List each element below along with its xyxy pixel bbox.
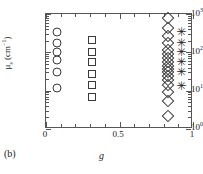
- axis-tick: [46, 58, 49, 59]
- axis-tick: [46, 23, 49, 24]
- axis-tick: [105, 14, 106, 17]
- axis-tick: [188, 34, 191, 35]
- axis-tick: [134, 124, 135, 127]
- data-point-diamonds: [162, 109, 175, 122]
- axis-tick: [46, 129, 51, 130]
- axis-tick: [120, 122, 121, 127]
- data-point-squares: [88, 58, 96, 66]
- data-point-asterisks: ✳: [176, 67, 187, 78]
- axis-tick: [186, 129, 191, 130]
- axis-tick: [46, 64, 49, 65]
- axis-tick: [46, 29, 49, 30]
- axis-tick: [188, 41, 191, 42]
- axis-tick: [46, 52, 51, 53]
- axis-tick: [46, 106, 49, 107]
- axis-tick: [188, 111, 191, 112]
- x-tick-label-0.5: 0.5: [108, 130, 128, 139]
- axis-tick: [188, 68, 191, 69]
- x-tick-label-0: 0: [35, 130, 55, 139]
- axis-tick: [149, 124, 150, 127]
- axis-tick: [178, 14, 179, 17]
- y-axis-title-mu: μ: [2, 65, 12, 70]
- axis-tick: [90, 14, 91, 17]
- axis-tick: [61, 124, 62, 127]
- axis-tick: [46, 117, 49, 118]
- axis-tick: [46, 92, 49, 93]
- axis-tick: [188, 102, 191, 103]
- axis-tick: [188, 23, 191, 24]
- axis-tick: [105, 124, 106, 127]
- data-point-squares: [88, 36, 96, 44]
- axis-tick: [188, 20, 191, 21]
- axis-tick: [164, 124, 165, 127]
- axis-tick: [75, 124, 76, 127]
- axis-tick: [46, 61, 49, 62]
- axis-tick: [46, 97, 49, 98]
- data-point-circles: [53, 68, 62, 77]
- axis-tick: [46, 79, 49, 80]
- y-axis-title-unit-exponent: −1: [1, 40, 7, 46]
- data-point-circles: [53, 47, 62, 56]
- axis-tick: [188, 117, 191, 118]
- axis-tick: [188, 58, 191, 59]
- axis-tick: [46, 34, 49, 35]
- axis-tick: [188, 29, 191, 30]
- axis-tick: [46, 94, 49, 95]
- y-axis-title-unit-close: ): [2, 37, 12, 40]
- axis-tick: [46, 54, 49, 55]
- axis-tick: [188, 92, 191, 93]
- axis-tick: [188, 26, 191, 27]
- data-point-circles: [53, 56, 62, 65]
- axis-tick: [75, 14, 76, 17]
- axis-tick: [46, 14, 47, 19]
- x-tick-label-1: 1: [182, 130, 202, 139]
- axis-tick: [188, 94, 191, 95]
- axis-tick: [46, 99, 49, 100]
- axis-tick: [46, 41, 49, 42]
- axis-tick: [188, 18, 191, 19]
- axis-tick: [188, 106, 191, 107]
- axis-tick: [46, 102, 49, 103]
- y-axis-title-subscript: s: [8, 62, 14, 64]
- axis-tick: [90, 124, 91, 127]
- axis-tick: [186, 52, 191, 53]
- axis-tick: [188, 99, 191, 100]
- axis-tick: [149, 14, 150, 17]
- y-axis-title: μs (cm−1): [2, 16, 12, 90]
- data-point-circles: [53, 83, 62, 92]
- axis-tick: [46, 20, 49, 21]
- axis-tick: [46, 26, 49, 27]
- data-point-diamonds: [162, 94, 175, 107]
- y-axis-title-unit-open: (cm: [2, 46, 12, 62]
- axis-tick: [188, 56, 191, 57]
- axis-tick: [188, 64, 191, 65]
- axis-tick: [188, 97, 191, 98]
- axis-tick: [188, 79, 191, 80]
- figure-panel-b: μs (cm−1) 103 102 101 100 0 0.5 1 g (b) …: [0, 0, 203, 174]
- axis-tick: [188, 72, 191, 73]
- axis-tick: [46, 111, 49, 112]
- panel-label: (b): [4, 148, 16, 159]
- axis-tick: [188, 61, 191, 62]
- axis-tick: [186, 91, 191, 92]
- axis-tick: [46, 72, 49, 73]
- axis-tick: [186, 14, 191, 15]
- data-point-squares: [88, 48, 96, 56]
- plot-area: ✳✳✳✳✳✳: [45, 13, 192, 128]
- axis-tick: [193, 122, 194, 127]
- axis-tick: [46, 122, 47, 127]
- axis-tick: [188, 16, 191, 17]
- data-point-squares: [88, 93, 96, 101]
- data-point-squares: [88, 70, 96, 78]
- axis-tick: [193, 14, 194, 19]
- axis-tick: [178, 124, 179, 127]
- axis-tick: [120, 14, 121, 19]
- data-point-circles: [53, 28, 62, 37]
- axis-tick: [188, 54, 191, 55]
- data-point-squares: [88, 81, 96, 89]
- axis-tick: [46, 56, 49, 57]
- x-axis-title: g: [0, 150, 203, 161]
- axis-tick: [61, 14, 62, 17]
- axis-tick: [134, 14, 135, 17]
- axis-tick: [46, 91, 51, 92]
